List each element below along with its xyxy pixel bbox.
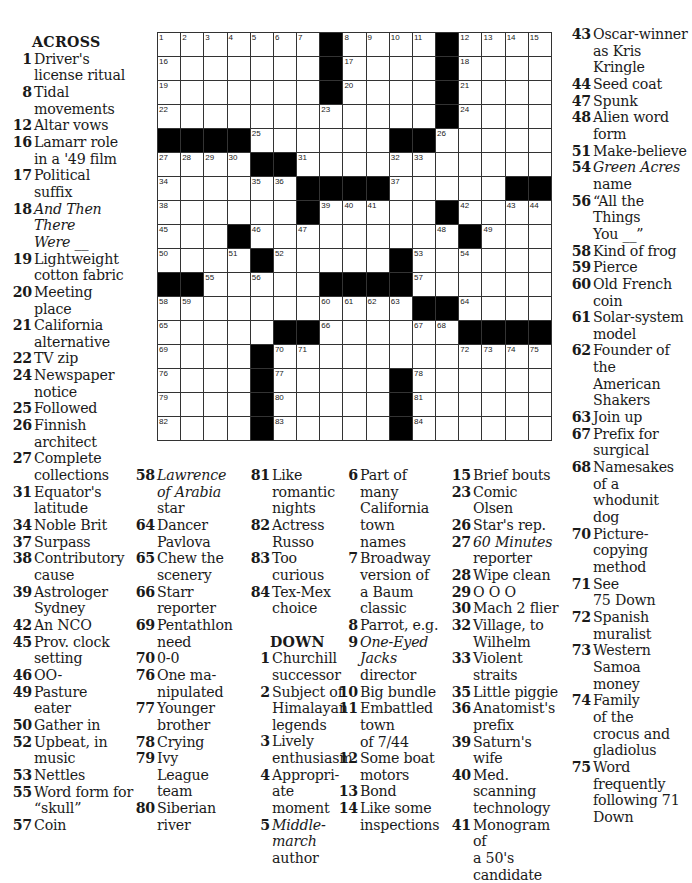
- grid-cell[interactable]: [367, 345, 389, 368]
- grid-cell[interactable]: [459, 177, 481, 200]
- grid-cell[interactable]: 62: [367, 297, 389, 320]
- grid-cell[interactable]: [506, 369, 528, 392]
- grid-cell[interactable]: 28: [181, 153, 203, 176]
- grid-cell[interactable]: 81: [413, 393, 435, 416]
- grid-cell[interactable]: [181, 225, 203, 248]
- grid-cell[interactable]: [529, 393, 551, 416]
- grid-cell[interactable]: 27: [158, 153, 180, 176]
- grid-cell[interactable]: 51: [228, 249, 250, 272]
- grid-cell[interactable]: [459, 369, 481, 392]
- grid-cell[interactable]: [228, 57, 250, 80]
- grid-cell[interactable]: [204, 57, 226, 80]
- grid-cell[interactable]: [367, 249, 389, 272]
- grid-cell[interactable]: 16: [158, 57, 180, 80]
- grid-cell[interactable]: 24: [459, 105, 481, 128]
- grid-cell[interactable]: [320, 345, 342, 368]
- grid-cell[interactable]: 8: [343, 33, 365, 56]
- grid-cell[interactable]: [459, 417, 481, 440]
- grid-cell[interactable]: [413, 345, 435, 368]
- grid-cell[interactable]: 22: [158, 105, 180, 128]
- grid-cell[interactable]: [482, 81, 504, 104]
- grid-cell[interactable]: [297, 57, 319, 80]
- grid-cell[interactable]: [274, 81, 296, 104]
- grid-cell[interactable]: [251, 105, 273, 128]
- grid-cell[interactable]: 56: [251, 273, 273, 296]
- grid-cell[interactable]: 11: [413, 33, 435, 56]
- grid-cell[interactable]: 84: [413, 417, 435, 440]
- grid-cell[interactable]: [204, 105, 226, 128]
- grid-cell[interactable]: 83: [274, 417, 296, 440]
- grid-cell[interactable]: 47: [297, 225, 319, 248]
- grid-cell[interactable]: 52: [274, 249, 296, 272]
- grid-cell[interactable]: 82: [158, 417, 180, 440]
- grid-cell[interactable]: 61: [343, 297, 365, 320]
- grid-cell[interactable]: 49: [482, 225, 504, 248]
- grid-cell[interactable]: [482, 57, 504, 80]
- grid-cell[interactable]: 37: [390, 177, 412, 200]
- grid-cell[interactable]: [297, 105, 319, 128]
- grid-cell[interactable]: [390, 57, 412, 80]
- grid-cell[interactable]: 70: [274, 345, 296, 368]
- grid-cell[interactable]: [297, 369, 319, 392]
- grid-cell[interactable]: 69: [158, 345, 180, 368]
- grid-cell[interactable]: [297, 417, 319, 440]
- grid-cell[interactable]: [274, 273, 296, 296]
- grid-cell[interactable]: 15: [529, 33, 551, 56]
- grid-cell[interactable]: [320, 153, 342, 176]
- grid-cell[interactable]: [390, 225, 412, 248]
- grid-cell[interactable]: [274, 201, 296, 224]
- grid-cell[interactable]: [343, 321, 365, 344]
- grid-cell[interactable]: 36: [274, 177, 296, 200]
- grid-cell[interactable]: [506, 57, 528, 80]
- grid-cell[interactable]: [482, 417, 504, 440]
- grid-cell[interactable]: 38: [158, 201, 180, 224]
- grid-cell[interactable]: [320, 129, 342, 152]
- grid-cell[interactable]: [482, 369, 504, 392]
- grid-cell[interactable]: [529, 81, 551, 104]
- grid-cell[interactable]: 26: [436, 129, 458, 152]
- grid-cell[interactable]: [459, 393, 481, 416]
- grid-cell[interactable]: 10: [390, 33, 412, 56]
- grid-cell[interactable]: [228, 105, 250, 128]
- grid-cell[interactable]: [228, 297, 250, 320]
- grid-cell[interactable]: 9: [367, 33, 389, 56]
- grid-cell[interactable]: 66: [320, 321, 342, 344]
- grid-cell[interactable]: [204, 393, 226, 416]
- grid-cell[interactable]: [529, 153, 551, 176]
- grid-cell[interactable]: [506, 417, 528, 440]
- grid-cell[interactable]: [367, 105, 389, 128]
- grid-cell[interactable]: [343, 153, 365, 176]
- grid-cell[interactable]: 41: [367, 201, 389, 224]
- grid-cell[interactable]: 6: [274, 33, 296, 56]
- grid-cell[interactable]: 2: [181, 33, 203, 56]
- grid-cell[interactable]: 13: [482, 33, 504, 56]
- grid-cell[interactable]: [367, 57, 389, 80]
- grid-cell[interactable]: [436, 153, 458, 176]
- grid-cell[interactable]: [367, 393, 389, 416]
- grid-cell[interactable]: [390, 345, 412, 368]
- grid-cell[interactable]: [343, 417, 365, 440]
- grid-cell[interactable]: [436, 345, 458, 368]
- grid-cell[interactable]: [343, 369, 365, 392]
- grid-cell[interactable]: [228, 81, 250, 104]
- grid-cell[interactable]: [181, 345, 203, 368]
- grid-cell[interactable]: [251, 81, 273, 104]
- grid-cell[interactable]: 63: [390, 297, 412, 320]
- grid-cell[interactable]: [228, 177, 250, 200]
- grid-cell[interactable]: [204, 201, 226, 224]
- grid-cell[interactable]: [297, 393, 319, 416]
- grid-cell[interactable]: [436, 393, 458, 416]
- grid-cell[interactable]: [181, 369, 203, 392]
- grid-cell[interactable]: 40: [343, 201, 365, 224]
- grid-cell[interactable]: 80: [274, 393, 296, 416]
- grid-cell[interactable]: [320, 417, 342, 440]
- grid-cell[interactable]: [228, 369, 250, 392]
- grid-cell[interactable]: 58: [158, 297, 180, 320]
- grid-cell[interactable]: 34: [158, 177, 180, 200]
- grid-cell[interactable]: [390, 81, 412, 104]
- grid-cell[interactable]: 68: [436, 321, 458, 344]
- grid-cell[interactable]: [228, 417, 250, 440]
- grid-cell[interactable]: 48: [436, 225, 458, 248]
- grid-cell[interactable]: [459, 273, 481, 296]
- grid-cell[interactable]: 72: [459, 345, 481, 368]
